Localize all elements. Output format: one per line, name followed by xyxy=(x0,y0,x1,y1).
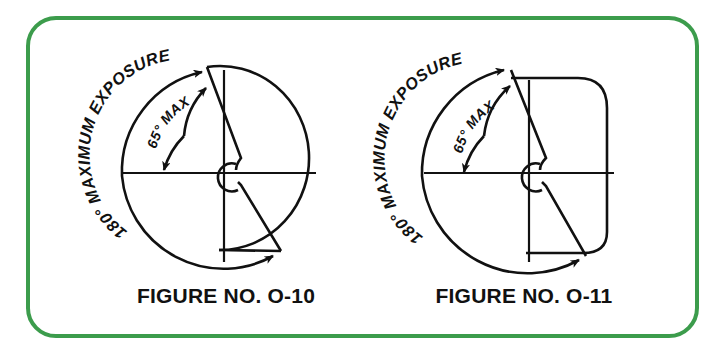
figure-o-11: 180° MAXIMUM EXPOSURE 65° MAX FIGURE NO.… xyxy=(364,40,684,330)
sector-rim-chord xyxy=(219,250,281,251)
figure-o-10-drawing: 180° MAXIMUM EXPOSURE 65° MAX xyxy=(66,40,386,285)
inner-arc-label: 65° MAX xyxy=(449,96,498,154)
inner-arc-65-lower-arrow xyxy=(164,136,184,170)
drum-outline-circle xyxy=(207,66,309,250)
diagram-page: 180° MAXIMUM EXPOSURE 65° MAX FIGURE NO.… xyxy=(0,0,727,360)
figure-o-11-drawing: 180° MAXIMUM EXPOSURE 65° MAX xyxy=(364,40,684,285)
outer-arc-180-lower-arrow xyxy=(122,176,273,269)
figure-caption-o-11: FIGURE NO. O-11 xyxy=(364,284,684,308)
outer-arc-180-lower-arrow xyxy=(422,176,579,273)
green-rounded-border: 180° MAXIMUM EXPOSURE 65° MAX FIGURE NO.… xyxy=(26,16,699,338)
figure-caption-o-10: FIGURE NO. O-10 xyxy=(66,284,386,308)
inner-arc-65-upper-arrow xyxy=(184,88,206,136)
figure-o-10: 180° MAXIMUM EXPOSURE 65° MAX FIGURE NO.… xyxy=(66,40,386,330)
outer-arc-180-upper-arrow xyxy=(422,70,504,176)
sector-edge-lower xyxy=(542,182,586,256)
